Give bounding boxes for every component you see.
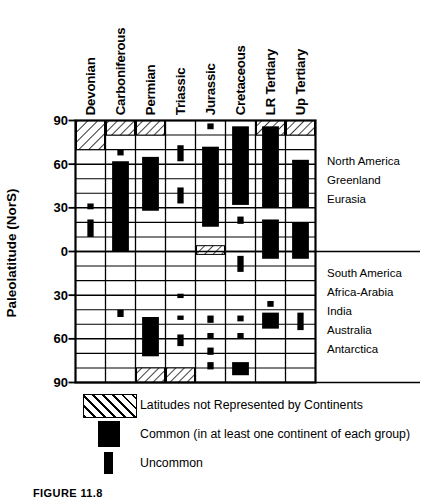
continent-label-north-america: North America (327, 156, 400, 168)
figure-caption: FIGURE 11.8 (33, 488, 103, 499)
legend-item-filled-wide: Common (in at least one continent of eac… (0, 421, 429, 447)
continent-label-australia: Australia (327, 325, 372, 337)
legend-item-filled-narrow: Uncommon (0, 450, 429, 476)
legend-label-filled-wide: Common (in at least one continent of eac… (140, 428, 410, 440)
legend-swatch-uncommon (104, 452, 113, 474)
legend-swatch-common (98, 421, 120, 447)
legend-label-filled-narrow: Uncommon (140, 457, 203, 469)
continent-label-eurasia: Eurasia (327, 194, 366, 206)
continent-label-india: India (327, 306, 352, 318)
continent-label-africa-arabia: Africa-Arabia (327, 287, 393, 299)
continent-label-south-america: South America (327, 268, 402, 280)
continent-label-antarctica: Antarctica (327, 344, 378, 356)
figure-root: DevonianCarboniferousPermianTriassicJura… (0, 0, 429, 501)
legend-label-hatched: Latitudes not Represented by Continents (140, 399, 363, 411)
continent-label-greenland: Greenland (327, 175, 381, 187)
legend-swatch-hatched (83, 394, 137, 418)
legend-item-hatched: Latitudes not Represented by Continents (0, 392, 429, 418)
